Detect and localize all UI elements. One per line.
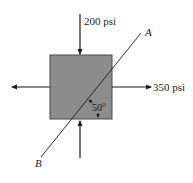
plane-end-b-label: B	[35, 157, 42, 169]
plane-end-a-label: A	[144, 26, 152, 38]
stress-element-diagram: 200 psi 350 psi A B 50°	[0, 0, 193, 183]
horizontal-stress-label: 350 psi	[153, 81, 185, 93]
angle-label: 50°	[92, 102, 106, 113]
vertical-stress-label: 200 psi	[84, 15, 116, 27]
